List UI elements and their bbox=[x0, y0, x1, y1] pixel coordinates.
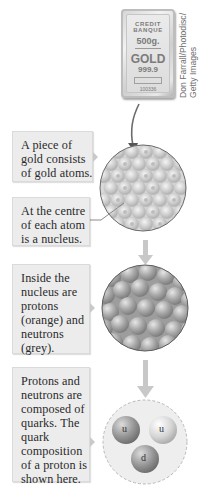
panel-1-pointer-icon bbox=[93, 152, 98, 162]
curved-arrow-icon bbox=[128, 104, 139, 152]
panel-3-line-3: protons bbox=[21, 299, 85, 313]
panel-3-line-6: (grey). bbox=[21, 341, 85, 355]
quark-label-d: d bbox=[141, 452, 146, 463]
down-arrow-icon bbox=[137, 360, 154, 398]
proton-quark-icon bbox=[103, 400, 187, 484]
quark-label-u1: u bbox=[122, 423, 127, 434]
nucleus-icon bbox=[95, 263, 199, 355]
atom-lattice-icon bbox=[97, 145, 188, 231]
panel-1-line-1: A piece of bbox=[21, 138, 88, 152]
panel-1-line-3: of gold atoms. bbox=[21, 166, 88, 180]
panel-2-line-2: of each atom bbox=[21, 218, 85, 232]
panel-protons-neutrons: Inside the nucleus are protons (orange) … bbox=[12, 264, 90, 354]
panel-3-line-5: neutrons bbox=[21, 327, 85, 341]
panel-2-line-3: is a nucleus. bbox=[21, 232, 85, 246]
panel-4-pointer-icon bbox=[90, 437, 95, 447]
panel-1-line-2: gold consists bbox=[21, 152, 88, 166]
panel-3-line-1: Inside the bbox=[21, 271, 85, 285]
panel-4-line-3: composed of bbox=[21, 402, 85, 416]
panel-4-line-4: quarks. The bbox=[21, 416, 85, 430]
panel-2-line-1: At the centre bbox=[21, 204, 85, 218]
panel-4-line-5: quark bbox=[21, 430, 85, 444]
panel-4-line-6: composition bbox=[21, 444, 85, 458]
panel-gold-atoms: A piece of gold consists of gold atoms. bbox=[12, 131, 93, 182]
down-arrow-icon bbox=[138, 240, 153, 265]
panel-3-pointer-icon bbox=[90, 303, 95, 313]
panel-4-line-1: Protons and bbox=[21, 374, 85, 388]
panel-3-line-4: (orange) and bbox=[21, 313, 85, 327]
panel-4-line-7: of a proton is bbox=[21, 458, 85, 472]
panel-nucleus: At the centre of each atom is a nucleus. bbox=[12, 197, 90, 246]
panel-3-line-2: nucleus are bbox=[21, 285, 85, 299]
quark-label-u2: u bbox=[159, 423, 164, 434]
panel-4-line-8: shown here. bbox=[21, 472, 85, 486]
panel-quarks: Protons and neutrons are composed of qua… bbox=[12, 367, 90, 482]
panel-4-line-2: neutrons are bbox=[21, 388, 85, 402]
